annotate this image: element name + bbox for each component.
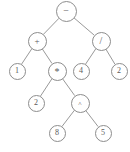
tree-edge bbox=[63, 79, 75, 96]
tree-leaf-node: 5 bbox=[95, 125, 112, 142]
tree-node-label: / bbox=[100, 36, 103, 46]
tree-node-label: 1 bbox=[15, 67, 19, 75]
tree-operator-node: ^ bbox=[71, 94, 90, 113]
expression-tree-figure: −+/1*422^85 bbox=[0, 0, 130, 152]
tree-edge bbox=[44, 19, 59, 35]
tree-operator-node: * bbox=[48, 62, 67, 81]
tree-leaf-node: 4 bbox=[73, 63, 90, 80]
tree-node-label: 4 bbox=[79, 67, 83, 75]
tree-edge bbox=[42, 49, 51, 63]
tree-node-label: 8 bbox=[55, 129, 59, 137]
tree-leaf-node: 2 bbox=[111, 63, 128, 80]
tree-leaf-node: 1 bbox=[9, 63, 26, 80]
tree-edge bbox=[86, 111, 98, 127]
tree-node-label: 2 bbox=[34, 99, 38, 107]
tree-edge bbox=[74, 18, 94, 35]
tree-edge bbox=[106, 49, 115, 64]
tree-node-label: * bbox=[55, 67, 60, 77]
tree-edge bbox=[62, 111, 74, 127]
tree-leaf-node: 8 bbox=[49, 125, 66, 142]
tree-node-label: ^ bbox=[78, 101, 81, 108]
tree-edge bbox=[86, 49, 96, 64]
tree-node-label: + bbox=[34, 37, 39, 46]
tree-node-label: 2 bbox=[117, 67, 121, 75]
tree-operator-node: − bbox=[56, 1, 77, 22]
tree-edge bbox=[22, 49, 32, 64]
tree-operator-node: + bbox=[28, 32, 47, 51]
tree-node-label: − bbox=[63, 6, 69, 16]
tree-leaf-node: 2 bbox=[28, 95, 45, 112]
tree-edge bbox=[41, 79, 52, 96]
tree-operator-node: / bbox=[92, 32, 111, 51]
tree-node-label: 5 bbox=[101, 129, 105, 137]
